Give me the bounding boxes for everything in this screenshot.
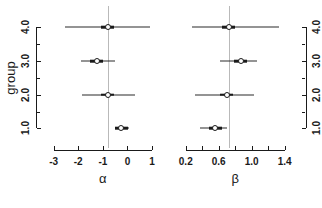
- panel-beta: β 0.20.61.01.41.02.03.04.0: [157, 0, 322, 208]
- x-axis-tick-label: 1.0: [245, 157, 259, 167]
- x-axis-tick: [252, 146, 253, 150]
- y-axis-tick: [37, 128, 41, 129]
- x-axis-tick-label: 1.4: [278, 157, 292, 167]
- point-estimate-marker: [238, 58, 244, 64]
- y-axis-tick: [302, 27, 306, 28]
- x-axis-tick: [54, 146, 55, 150]
- y-axis-tick: [37, 61, 41, 62]
- y-axis-tick-label: 1.0: [312, 122, 322, 136]
- x-axis-title-alpha: α: [99, 172, 107, 185]
- y-axis-tick-label: 4.0: [312, 20, 322, 34]
- y-axis-minor-tick: [302, 112, 305, 113]
- plot-area-beta: [180, 12, 297, 142]
- x-axis-tick: [127, 146, 128, 150]
- x-axis-tick: [268, 146, 269, 150]
- y-axis-minor-tick: [302, 78, 305, 79]
- point-estimate-marker: [105, 92, 111, 98]
- x-axis-tick-label: 0.6: [212, 157, 226, 167]
- y-axis-tick: [302, 128, 306, 129]
- x-axis-tick: [152, 146, 153, 150]
- y-axis-tick: [302, 95, 306, 96]
- point-estimate-marker: [226, 24, 232, 30]
- x-axis-tick-label: 1: [149, 157, 155, 167]
- y-axis-tick-label: 3.0: [312, 54, 322, 68]
- y-axis-tick-label: 3.0: [21, 54, 31, 68]
- y-axis-tick-label: 2.0: [21, 88, 31, 102]
- point-estimate-marker: [105, 24, 111, 30]
- y-axis-minor-tick: [302, 44, 305, 45]
- x-axis-tick: [235, 146, 236, 150]
- x-axis-tick: [219, 146, 220, 150]
- y-axis-title-group: group: [4, 61, 17, 94]
- y-axis-tick-label: 2.0: [312, 88, 322, 102]
- plot-area-alpha: [45, 12, 157, 142]
- x-axis-line: [186, 150, 285, 151]
- x-axis-tick: [202, 146, 203, 150]
- forest-plot-figure: α group -3-2-1011.02.03.04.0 β 0.20.61.0…: [0, 0, 322, 208]
- confidence-interval-line: [192, 27, 279, 28]
- panel-alpha: α group -3-2-1011.02.03.04.0: [0, 0, 165, 208]
- x-axis-tick-label: -3: [49, 157, 58, 167]
- point-estimate-marker: [94, 58, 100, 64]
- x-axis-title-beta: β: [231, 172, 238, 185]
- x-axis-tick-label: 0.2: [179, 157, 193, 167]
- x-axis-line: [54, 150, 152, 151]
- x-axis-tick: [78, 146, 79, 150]
- point-estimate-marker: [118, 125, 124, 131]
- y-axis-minor-tick: [37, 78, 40, 79]
- y-axis-minor-tick: [37, 44, 40, 45]
- x-axis-tick-label: -1: [98, 157, 107, 167]
- y-axis-tick: [37, 27, 41, 28]
- y-axis-tick: [37, 95, 41, 96]
- y-axis-line: [306, 27, 307, 128]
- y-axis-minor-tick: [37, 112, 40, 113]
- x-axis-tick-label: -2: [74, 157, 83, 167]
- y-axis-tick: [302, 61, 306, 62]
- x-axis-tick: [285, 146, 286, 150]
- x-axis-tick: [186, 146, 187, 150]
- point-estimate-marker: [224, 92, 230, 98]
- x-axis-tick-label: 0: [125, 157, 131, 167]
- y-axis-tick-label: 4.0: [21, 20, 31, 34]
- point-estimate-marker: [212, 125, 218, 131]
- x-axis-tick: [103, 146, 104, 150]
- y-axis-tick-label: 1.0: [21, 122, 31, 136]
